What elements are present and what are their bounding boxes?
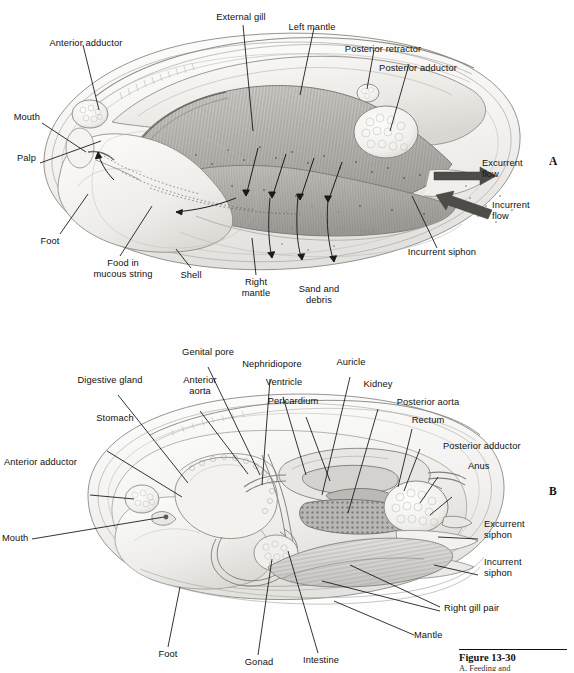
label-incurrent-siphon: Incurrent siphon — [392, 247, 492, 258]
label-anus: Anus — [468, 461, 508, 472]
posterior-retractor-muscle — [357, 84, 379, 102]
label-left-mantle: Left mantle — [267, 22, 357, 33]
label-posterior-adductor-b: Posterior adductor — [443, 441, 563, 452]
label-anterior-adductor-b: Anterior adductor — [4, 457, 100, 468]
panel-b: Genital pore Nephridiopore Auricle Diges… — [0, 335, 574, 673]
label-posterior-retractor: Posterior retractor — [328, 44, 438, 55]
label-mantle: Mantle — [414, 630, 472, 641]
panel-b-id: B — [549, 485, 557, 497]
label-incurrent-flow: Incurrent flow — [492, 200, 552, 221]
label-external-gill: External gill — [186, 12, 296, 23]
label-sand-and-debris: Sand and debris — [284, 284, 354, 305]
panel-a: Anterior adductor External gill Left man… — [0, 0, 574, 335]
label-nephridiopore: Nephridiopore — [222, 359, 322, 370]
posterior-adductor-muscle — [354, 106, 418, 158]
label-foot-b: Foot — [146, 649, 190, 660]
label-pericardium: Pericardium — [255, 396, 331, 407]
label-anterior-adductor: Anterior adductor — [31, 38, 141, 49]
label-posterior-adductor: Posterior adductor — [363, 63, 473, 74]
caption-subtext: A, Feeding and — [459, 664, 569, 671]
posterior-adductor-b — [384, 481, 448, 533]
label-incurrent-siphon-b: Incurrent siphon — [484, 557, 550, 578]
label-posterior-aorta: Posterior aorta — [378, 397, 478, 408]
label-foot: Foot — [30, 236, 70, 247]
label-mouth-b: Mouth — [2, 533, 46, 544]
label-food-in-mucous-string: Food in mucous string — [73, 258, 173, 279]
label-gonad: Gonad — [234, 657, 284, 668]
caption-label: Figure 13-30 — [459, 652, 569, 663]
label-digestive-gland: Digestive gland — [56, 375, 164, 386]
figure-page: Anterior adductor External gill Left man… — [0, 0, 574, 673]
label-anterior-aorta: Anterior aorta — [163, 375, 237, 396]
label-ventricle: Ventricle — [253, 377, 315, 388]
label-excurrent-siphon-b: Excurrent siphon — [484, 519, 550, 540]
label-stomach: Stomach — [81, 413, 149, 424]
anterior-adductor-muscle — [72, 100, 108, 128]
label-genital-pore: Genital pore — [152, 347, 264, 358]
label-kidney: Kidney — [352, 379, 404, 390]
label-right-mantle: Right mantle — [229, 277, 283, 298]
label-palp: Palp — [0, 153, 36, 164]
label-rectum: Rectum — [400, 415, 456, 426]
label-auricle: Auricle — [324, 357, 378, 368]
label-right-gill-pair: Right gill pair — [444, 603, 544, 614]
figure-caption: Figure 13-30 A, Feeding and — [459, 649, 569, 671]
caption-rule — [459, 649, 567, 650]
panel-a-id: A — [549, 155, 557, 167]
label-mouth: Mouth — [0, 112, 40, 123]
label-intestine: Intestine — [292, 655, 350, 666]
label-excurrent-flow: Excurrent flow — [482, 158, 542, 179]
label-shell: Shell — [168, 270, 214, 281]
